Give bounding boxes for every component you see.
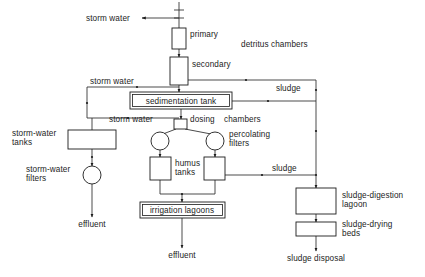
junction-dot-sedimentation-sludge bbox=[267, 100, 269, 102]
label-storm-water-top: storm water bbox=[86, 14, 130, 23]
label-tanks: tanks bbox=[175, 168, 195, 177]
label-dosing: dosing bbox=[190, 115, 215, 124]
node-humus-tank-left[interactable] bbox=[150, 157, 171, 180]
node-dosing-chamber[interactable] bbox=[174, 119, 187, 129]
junction-dot-storm-bypass-upper bbox=[136, 86, 138, 88]
label-irrigation-lagoons: irrigation lagoons bbox=[150, 206, 214, 215]
node-primary-detritus-chamber[interactable] bbox=[172, 28, 186, 49]
label-sludge-digestion-line1: sludge-digestion bbox=[342, 191, 404, 200]
label-sludge-drying-line2: beds bbox=[342, 229, 360, 238]
junction-dot-riser-upper bbox=[315, 89, 317, 91]
label-sludge-drying-line1: sludge-drying bbox=[342, 220, 393, 229]
label-chambers: chambers bbox=[224, 115, 261, 124]
junction-dot-detritus-sludge bbox=[245, 79, 247, 81]
node-humus-tank-right[interactable] bbox=[204, 157, 225, 180]
label-primary: primary bbox=[190, 30, 219, 39]
sewage-treatment-flow-diagram: storm water primary secondary detritus c… bbox=[0, 0, 425, 277]
junction-dot-riser-mid bbox=[315, 130, 317, 132]
label-percolating: percolating bbox=[229, 130, 271, 139]
junction-dot-humus-collector bbox=[181, 193, 183, 195]
edge-dosing-to-filter-right bbox=[185, 129, 211, 134]
node-secondary-detritus-chamber[interactable] bbox=[170, 57, 188, 85]
label-effluent-center: effluent bbox=[168, 251, 196, 260]
label-storm-water-filters-line1: storm-water bbox=[26, 165, 70, 174]
label-filters: filters bbox=[229, 139, 249, 148]
junction-dot-storm-riser bbox=[86, 102, 88, 104]
flow-diagram-canvas: storm water primary secondary detritus c… bbox=[0, 0, 425, 277]
label-sludge-disposal: sludge disposal bbox=[287, 254, 345, 263]
label-secondary: secondary bbox=[192, 60, 231, 69]
junction-dot-storm-tank-outlet bbox=[91, 156, 93, 158]
edge-humus-collector bbox=[160, 180, 215, 194]
label-sludge-upper: sludge bbox=[276, 84, 301, 93]
node-percolating-filter-right[interactable] bbox=[206, 132, 224, 150]
label-humus: humus bbox=[175, 159, 200, 168]
label-storm-water-tanks-line2: tanks bbox=[12, 138, 32, 147]
label-detritus-chambers: detritus chambers bbox=[241, 40, 308, 49]
node-storm-water-filters[interactable] bbox=[83, 166, 101, 184]
label-sedimentation-tank: sedimentation tank bbox=[146, 97, 217, 106]
label-storm-water-tanks-line1: storm-water bbox=[12, 129, 56, 138]
label-storm-water-middle: storm water bbox=[90, 77, 134, 86]
label-storm-water-filters-line2: filters bbox=[26, 174, 46, 183]
node-sludge-digestion-lagoon[interactable] bbox=[296, 188, 336, 214]
label-storm-water-lower: storm water bbox=[109, 115, 153, 124]
node-sludge-drying-beds[interactable] bbox=[296, 222, 336, 236]
label-sludge-digestion-line2: lagoon bbox=[342, 200, 368, 209]
node-storm-water-tanks[interactable] bbox=[68, 130, 116, 149]
node-percolating-filter-left[interactable] bbox=[151, 132, 169, 150]
label-effluent-left: effluent bbox=[78, 220, 106, 229]
junction-dot-humus-sludge bbox=[261, 174, 263, 176]
label-sludge-lower: sludge bbox=[272, 164, 297, 173]
